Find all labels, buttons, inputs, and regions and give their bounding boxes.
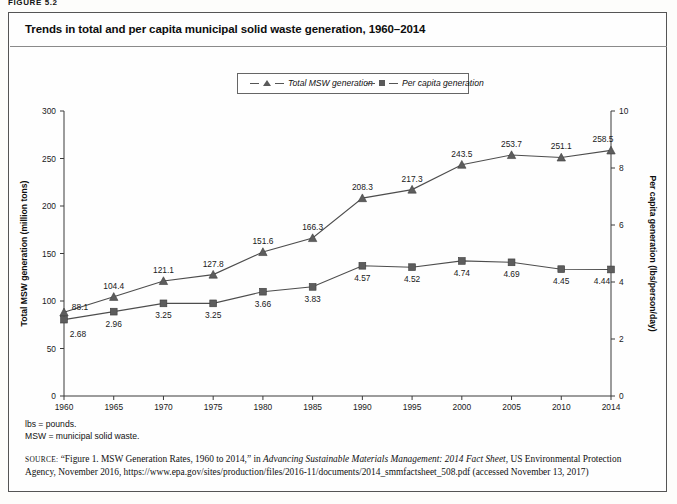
dual-axis-line-chart: 0501001502002503000246810196019651970197…	[9, 13, 668, 413]
data-point-square	[359, 262, 366, 269]
source-part-1: “Figure 1. MSW Generation Rates, 1960 to…	[61, 454, 263, 464]
data-point-square	[608, 266, 615, 273]
x-axis-tick-label: 1965	[104, 402, 123, 412]
x-axis-tick-label: 1970	[154, 402, 173, 412]
data-value-label: 258.5	[593, 134, 614, 144]
x-axis-tick-label: 1975	[204, 402, 223, 412]
data-point-square	[409, 264, 416, 271]
right-axis-tick-label: 10	[619, 106, 629, 116]
left-axis-title: Total MSW generation (million tons)	[19, 180, 29, 326]
right-axis-title: Per capita generation (lbs/person/day)	[648, 175, 658, 331]
data-point-square	[558, 266, 565, 273]
x-axis-tick-label: 2000	[452, 402, 471, 412]
x-axis-tick-label: 1985	[303, 402, 322, 412]
data-value-label: 4.69	[503, 269, 520, 279]
data-value-label: 3.66	[255, 299, 272, 309]
right-axis-tick-label: 2	[619, 334, 624, 344]
data-value-label: 4.45	[553, 276, 570, 286]
data-point-square	[260, 288, 267, 295]
data-value-label: 3.25	[205, 310, 222, 320]
data-point-triangle	[607, 146, 615, 154]
data-value-label: 243.5	[451, 149, 472, 159]
left-axis-tick-label: 250	[42, 154, 56, 164]
data-value-label: 4.57	[354, 273, 371, 283]
left-axis-tick-label: 150	[42, 249, 56, 259]
data-value-label: 253.7	[501, 139, 522, 149]
data-value-label: 4.52	[404, 274, 421, 284]
data-value-label: 217.3	[402, 174, 423, 184]
figure-number-label: FIGURE 5.2	[8, 0, 58, 6]
data-point-square	[110, 308, 117, 315]
source-keyword: SOURCE:	[25, 455, 58, 464]
data-value-label: 251.1	[551, 141, 572, 151]
data-value-label: 3.83	[304, 294, 321, 304]
source-italic-title: Advancing Sustainable Materials Manageme…	[263, 454, 506, 464]
right-axis-tick-label: 0	[619, 391, 624, 401]
data-point-square	[458, 258, 465, 265]
data-point-square	[309, 283, 316, 290]
data-point-square	[61, 316, 68, 323]
x-axis-tick-label: 2005	[502, 402, 521, 412]
x-axis-tick-label: 2014	[602, 402, 621, 412]
figure-source-citation: SOURCE: “Figure 1. MSW Generation Rates,…	[25, 453, 653, 479]
right-axis-tick-label: 4	[619, 277, 624, 287]
left-axis-tick-label: 200	[42, 201, 56, 211]
figure-container: Trends in total and per capita municipal…	[8, 12, 667, 492]
series-line-total-msw	[64, 150, 611, 312]
data-point-square	[160, 300, 167, 307]
data-value-label: 4.44	[594, 276, 611, 286]
data-value-label: 3.25	[155, 310, 172, 320]
data-value-label: 166.3	[302, 222, 323, 232]
x-axis-tick-label: 1960	[55, 402, 74, 412]
data-point-triangle	[209, 270, 217, 278]
note-lbs: lbs = pounds.	[25, 419, 139, 431]
data-point-triangle	[408, 185, 416, 193]
data-point-triangle	[110, 293, 118, 301]
data-value-label: 208.3	[352, 182, 373, 192]
x-axis-tick-label: 1980	[254, 402, 273, 412]
data-point-square	[508, 259, 515, 266]
note-msw: MSW = municipal solid waste.	[25, 431, 139, 443]
data-value-label: 104.4	[103, 281, 124, 291]
x-axis-tick-label: 1990	[353, 402, 372, 412]
data-value-label: 127.8	[203, 259, 224, 269]
data-value-label: 2.68	[70, 329, 87, 339]
data-value-label: 88.1	[72, 302, 89, 312]
left-axis-tick-label: 50	[47, 344, 57, 354]
data-point-triangle	[60, 308, 68, 316]
data-value-label: 151.6	[252, 236, 273, 246]
data-value-label: 4.74	[454, 268, 471, 278]
left-axis-tick-label: 100	[42, 296, 56, 306]
left-axis-tick-label: 300	[42, 106, 56, 116]
x-axis-tick-label: 1995	[403, 402, 422, 412]
data-value-label: 2.96	[106, 319, 123, 329]
figure-notes: lbs = pounds. MSW = municipal solid wast…	[25, 419, 139, 442]
right-axis-tick-label: 8	[619, 163, 624, 173]
right-axis-tick-label: 6	[619, 220, 624, 230]
series-line-per-capita	[64, 261, 611, 320]
data-point-square	[210, 300, 217, 307]
data-value-label: 121.1	[153, 265, 174, 275]
x-axis-tick-label: 2010	[552, 402, 571, 412]
left-axis-tick-label: 0	[51, 391, 56, 401]
